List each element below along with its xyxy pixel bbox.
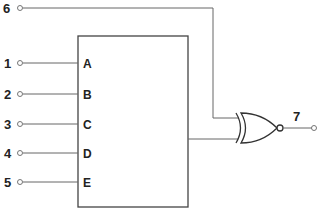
- pin-label-a: A: [83, 57, 92, 71]
- pin-label-c: C: [83, 118, 92, 132]
- terminal-1: [18, 61, 23, 66]
- wire-6-to-gate: [213, 8, 238, 118]
- terminal-label-3: 3: [4, 117, 11, 132]
- terminal-2: [18, 92, 23, 97]
- terminal-label-7: 7: [293, 109, 300, 124]
- pin-label-d: D: [83, 147, 92, 161]
- terminal-4: [18, 151, 23, 156]
- terminal-label-6: 6: [3, 1, 10, 16]
- terminal-3: [18, 122, 23, 127]
- terminal-label-2: 2: [4, 87, 11, 102]
- xnor-gate: [236, 113, 283, 143]
- inversion-bubble: [277, 125, 283, 131]
- logic-block: [78, 36, 188, 207]
- pin-label-e: E: [83, 176, 91, 190]
- terminal-label-5: 5: [4, 175, 11, 190]
- pin-label-b: B: [83, 88, 92, 102]
- circuit-diagram: 6 1 A 2 B 3 C 4 D 5 E 7: [0, 0, 318, 211]
- terminal-label-4: 4: [4, 146, 12, 161]
- xnor-gate-body: [241, 113, 277, 143]
- terminal-6: [18, 6, 23, 11]
- terminal-label-1: 1: [4, 56, 11, 71]
- terminal-5: [18, 180, 23, 185]
- terminal-7: [312, 126, 317, 131]
